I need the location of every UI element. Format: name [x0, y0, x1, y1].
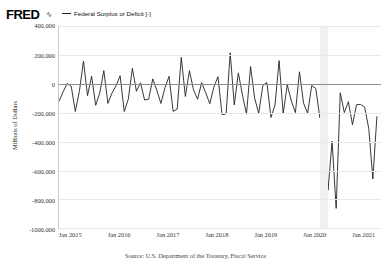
x-axis: Jan 2015 Jan 2016 Jan 2017 Jan 2018 Jan … — [0, 231, 391, 243]
gridline — [59, 26, 381, 27]
gridline — [59, 199, 381, 200]
y-axis: Millions of Dollars 400,000 200,000 0 -2… — [0, 26, 55, 228]
source-note: Source: U.S. Department of the Treasury,… — [0, 252, 391, 260]
legend-label: Federal Surplus or Deficit [-] — [74, 10, 151, 17]
y-axis-title: Millions of Dollars — [11, 86, 18, 166]
x-tick-label: Jan 2021 — [339, 231, 389, 238]
y-tick-label: 0 — [3, 81, 55, 88]
plot-area — [58, 26, 381, 229]
fred-squiggle-icon: ∿ — [45, 11, 52, 19]
y-tick-label: -800,000 — [3, 197, 55, 204]
x-tick-label: Jan 2015 — [45, 231, 95, 238]
chart-header: FRED ∿ Federal Surplus or Deficit [-] — [0, 0, 391, 26]
x-tick-label: Jan 2019 — [241, 231, 291, 238]
recession-shading — [320, 26, 328, 228]
gridline — [59, 55, 381, 56]
gridline — [59, 113, 381, 114]
gridline — [59, 142, 381, 143]
y-tick-label: -400,000 — [3, 139, 55, 146]
y-tick-label: 400,000 — [3, 22, 55, 29]
x-tick-label: Jan 2016 — [94, 231, 144, 238]
zero-reference-line — [59, 84, 381, 85]
fred-chart: FRED ∿ Federal Surplus or Deficit [-] Mi… — [0, 0, 391, 273]
x-tick-label: Jan 2017 — [143, 231, 193, 238]
x-tick-label: Jan 2018 — [192, 231, 242, 238]
data-series-line — [59, 26, 381, 228]
y-tick-label: 200,000 — [3, 52, 55, 59]
y-tick-label: -200,000 — [3, 110, 55, 117]
y-tick-label: -600,000 — [3, 168, 55, 175]
chart-legend[interactable]: Federal Surplus or Deficit [-] — [62, 10, 151, 17]
fred-logo: FRED — [6, 8, 39, 21]
legend-line-swatch — [62, 13, 71, 14]
x-tick-label: Jan 2020 — [290, 231, 340, 238]
gridline — [59, 171, 381, 172]
gridline — [59, 228, 381, 229]
